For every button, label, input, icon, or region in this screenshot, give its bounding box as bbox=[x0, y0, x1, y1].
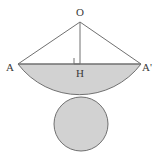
label-apex-o: O bbox=[76, 6, 84, 18]
label-point-h: H bbox=[76, 67, 84, 79]
label-point-a: A bbox=[6, 61, 14, 73]
right-angle-marker-icon bbox=[74, 58, 80, 64]
geometry-figure-canvas: O A A' H bbox=[0, 0, 158, 154]
lower-circle-shape bbox=[54, 97, 108, 151]
label-point-a-prime: A' bbox=[142, 61, 152, 73]
geometry-diagram-svg: O A A' H bbox=[0, 0, 158, 154]
